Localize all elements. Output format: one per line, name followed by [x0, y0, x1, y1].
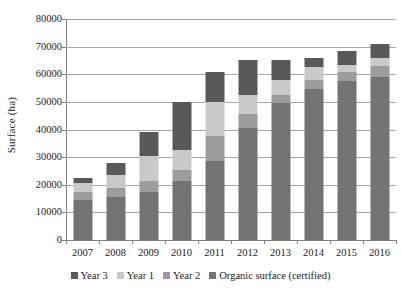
- bar-segment[interactable]: [271, 80, 290, 95]
- x-tick-slot: [330, 240, 363, 245]
- x-tick-slot: [165, 240, 198, 245]
- bar-segment[interactable]: [238, 95, 257, 114]
- bar-segment[interactable]: [172, 102, 191, 150]
- stacked-bar[interactable]: [172, 102, 191, 240]
- stacked-bar[interactable]: [106, 163, 125, 240]
- bar-segment[interactable]: [205, 161, 224, 240]
- bar-segment[interactable]: [139, 192, 158, 240]
- bar-slot: [330, 19, 363, 240]
- stacked-bar[interactable]: [73, 178, 92, 240]
- bar-slot: [165, 19, 198, 240]
- x-tick-mark: [231, 240, 232, 244]
- legend-item[interactable]: Year 3: [71, 270, 108, 281]
- y-tick-label: 20000: [10, 180, 62, 190]
- bar-segment[interactable]: [106, 188, 125, 198]
- stacked-bar[interactable]: [238, 60, 257, 240]
- plot-area: [66, 19, 396, 240]
- x-tick-slot: [264, 240, 297, 245]
- bar-segment[interactable]: [73, 200, 92, 240]
- bar-segment[interactable]: [304, 67, 323, 79]
- legend-swatch-icon: [163, 272, 170, 279]
- stacked-bar[interactable]: [139, 132, 158, 240]
- stacked-bar[interactable]: [370, 44, 389, 240]
- y-tick-label: 40000: [10, 125, 62, 135]
- bar-slot: [132, 19, 165, 240]
- bar-segment[interactable]: [337, 81, 356, 240]
- bar-slot: [363, 19, 396, 240]
- stacked-bar[interactable]: [337, 51, 356, 240]
- y-tick-label: 50000: [10, 97, 62, 107]
- bar-segment[interactable]: [304, 89, 323, 240]
- x-tick-mark: [330, 240, 331, 244]
- bar-segment[interactable]: [205, 72, 224, 102]
- x-axis-tick-labels: 2007200820092010201120122013201420152016: [66, 246, 396, 262]
- x-tick-slot: [231, 240, 264, 245]
- x-tick-label: 2009: [132, 246, 165, 262]
- bar-slot: [297, 19, 330, 240]
- bar-segment[interactable]: [106, 163, 125, 175]
- legend-item[interactable]: Organic surface (certified): [209, 270, 330, 281]
- bar-segment[interactable]: [139, 181, 158, 192]
- x-tick-slot: [363, 240, 396, 245]
- bar-segment[interactable]: [238, 60, 257, 95]
- bar-segment[interactable]: [370, 44, 389, 58]
- bar-segment[interactable]: [205, 102, 224, 137]
- x-tick-label: 2011: [198, 246, 231, 262]
- bar-slot: [198, 19, 231, 240]
- bar-segment[interactable]: [337, 72, 356, 82]
- bar-segment[interactable]: [370, 58, 389, 66]
- bar-slot: [264, 19, 297, 240]
- bar-slot: [231, 19, 264, 240]
- y-tick-label: 10000: [10, 207, 62, 217]
- legend-swatch-icon: [71, 272, 78, 279]
- legend-swatch-icon: [117, 272, 124, 279]
- bar-segment[interactable]: [271, 60, 290, 79]
- x-tick-label: 2010: [165, 246, 198, 262]
- bar-segment[interactable]: [205, 136, 224, 161]
- legend-item[interactable]: Year 1: [117, 270, 154, 281]
- x-tick-mark: [297, 240, 298, 244]
- bar-segment[interactable]: [172, 150, 191, 169]
- x-tick-mark: [198, 240, 199, 244]
- stacked-bar[interactable]: [205, 72, 224, 240]
- bar-segment[interactable]: [172, 170, 191, 181]
- bar-segment[interactable]: [271, 103, 290, 240]
- x-tick-label: 2012: [231, 246, 264, 262]
- x-tick-label: 2007: [66, 246, 99, 262]
- x-tick-slot: [132, 240, 165, 245]
- bar-segment[interactable]: [337, 51, 356, 65]
- bar-segment[interactable]: [106, 197, 125, 240]
- bar-segment[interactable]: [238, 114, 257, 128]
- y-tick-label: 60000: [10, 69, 62, 79]
- x-tick-label: 2016: [363, 246, 396, 262]
- bar-segment[interactable]: [73, 192, 92, 200]
- x-tick-label: 2013: [264, 246, 297, 262]
- x-axis-ticks: [66, 240, 396, 245]
- bar-segment[interactable]: [106, 175, 125, 187]
- stacked-bar[interactable]: [271, 60, 290, 240]
- x-tick-label: 2014: [297, 246, 330, 262]
- legend-item-label: Year 1: [127, 270, 154, 281]
- bar-segment[interactable]: [172, 181, 191, 240]
- bar-segment[interactable]: [139, 132, 158, 155]
- stacked-bar[interactable]: [304, 58, 323, 240]
- legend-item[interactable]: Year 2: [163, 270, 200, 281]
- bar-segment[interactable]: [304, 80, 323, 90]
- y-tick-label: 70000: [10, 42, 62, 52]
- bar-segment[interactable]: [73, 183, 92, 191]
- bar-segment[interactable]: [370, 66, 389, 77]
- y-tick-label: 30000: [10, 152, 62, 162]
- legend-item-label: Year 2: [173, 270, 200, 281]
- bar-segment[interactable]: [238, 128, 257, 240]
- bar-segment[interactable]: [337, 65, 356, 72]
- x-tick-mark: [132, 240, 133, 244]
- x-tick-mark: [66, 240, 67, 244]
- bar-segment[interactable]: [304, 58, 323, 68]
- bar-segment[interactable]: [370, 77, 389, 240]
- stacked-bar-chart: Surface (ha) 800007000060000500004000030…: [0, 0, 401, 294]
- bar-segment[interactable]: [139, 156, 158, 181]
- x-tick-slot: [66, 240, 99, 245]
- bar-segment[interactable]: [271, 95, 290, 103]
- x-tick-slot: [297, 240, 330, 245]
- legend-item-label: Organic surface (certified): [219, 270, 330, 281]
